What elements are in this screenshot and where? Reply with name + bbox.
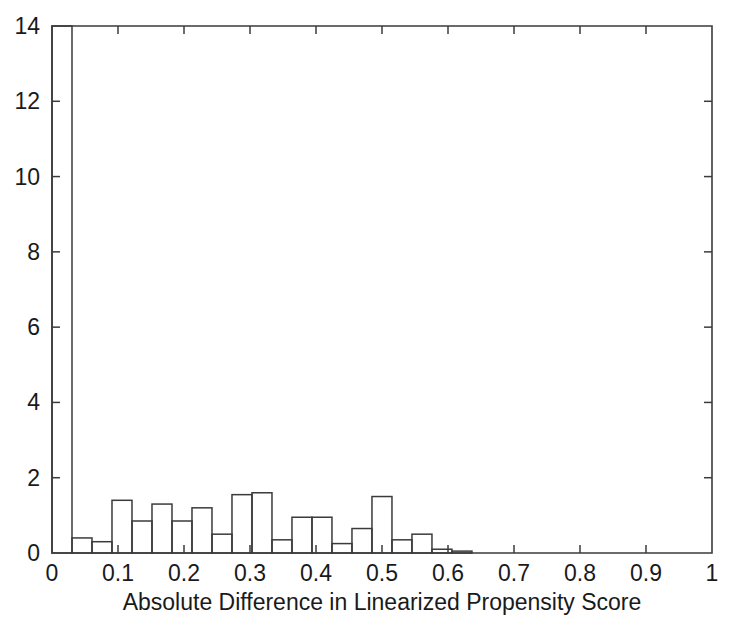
histogram-bar [232,495,252,553]
histogram-bar [172,521,192,553]
histogram-figure: 00.10.20.30.40.50.60.70.80.91 0246810121… [0,0,736,634]
histogram-bar [272,540,292,553]
histogram-bar [72,538,92,553]
histogram-bar [112,500,132,553]
histogram-bar [392,540,412,553]
x-tick-label: 0.8 [564,560,596,586]
y-tick-label: 12 [14,88,40,114]
histogram-bar [432,549,452,553]
histogram-bar [252,493,272,553]
x-tick-label: 1 [706,560,719,586]
x-tick-label: 0.5 [366,560,398,586]
histogram-bar [412,534,432,553]
x-tick-label: 0.2 [168,560,200,586]
x-tick-label: 0.4 [300,560,332,586]
histogram-bar [132,521,152,553]
x-tick-label: 0.7 [498,560,530,586]
histogram-bar [292,517,312,553]
x-tick-label: 0.9 [630,560,662,586]
x-axis-title: Absolute Difference in Linearized Propen… [123,589,642,615]
y-axis-ticks [52,101,712,477]
histogram-bar [312,517,332,553]
histogram-bar [332,544,352,553]
y-tick-label: 2 [27,465,40,491]
plot-box [52,26,712,553]
histogram-bars [52,26,472,553]
histogram-bar [52,26,72,553]
histogram-bar [92,542,112,553]
histogram-bar [452,551,472,553]
x-tick-label: 0.1 [102,560,134,586]
x-tick-label: 0 [46,560,59,586]
plot-canvas: 00.10.20.30.40.50.60.70.80.91 0246810121… [0,0,736,634]
histogram-bar [372,497,392,553]
x-axis-tick-labels: 00.10.20.30.40.50.60.70.80.91 [46,560,719,586]
y-tick-label: 14 [14,13,40,39]
x-tick-label: 0.6 [432,560,464,586]
histogram-bar [152,504,172,553]
y-tick-label: 0 [27,540,40,566]
histogram-bar [212,534,232,553]
plot-frame [52,26,712,553]
x-tick-label: 0.3 [234,560,266,586]
x-axis-ticks [118,26,646,553]
y-tick-label: 8 [27,239,40,265]
y-tick-label: 10 [14,164,40,190]
y-axis-tick-labels: 02468101214 [14,13,40,566]
y-tick-label: 6 [27,314,40,340]
y-tick-label: 4 [27,389,40,415]
histogram-bar [192,508,212,553]
histogram-bar [352,529,372,553]
